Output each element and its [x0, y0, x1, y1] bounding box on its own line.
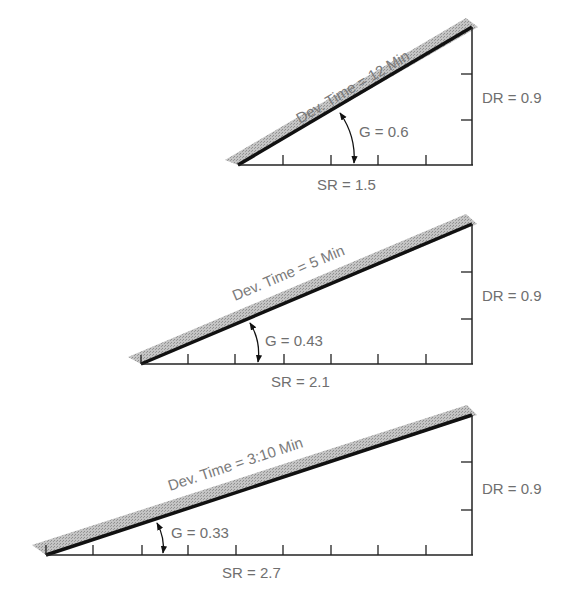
hypotenuse-line: [46, 415, 472, 555]
dr-ticks: [461, 462, 472, 510]
dr-label: DR = 0.9: [482, 89, 542, 106]
gradient-label: G = 0.6: [359, 123, 409, 140]
sr-ticks: [93, 545, 426, 555]
dr-ticks: [461, 74, 472, 120]
sr-ticks: [188, 354, 426, 364]
gradient-label: G = 0.43: [265, 332, 323, 349]
hypotenuse-line: [238, 27, 472, 165]
angle-arrow-icon: [250, 323, 259, 362]
angle-arrow-icon: [157, 523, 163, 553]
sr-label: SR = 2.7: [222, 564, 281, 581]
gradient-label: G = 0.33: [171, 524, 229, 541]
triangle-2: Dev. Time = 5 Min G = 0.43 SR = 2.1 DR =…: [128, 214, 542, 390]
angle-arrow-icon: [340, 113, 354, 163]
dr-label: DR = 0.9: [482, 480, 542, 497]
dev-time-label: Dev. Time = 12 Min: [293, 47, 412, 127]
dev-time-band: [32, 405, 477, 555]
gradient-triangles-diagram: Dev. Time = 12 Min G = 0.6 SR = 1.5 DR =…: [0, 0, 588, 610]
dr-label: DR = 0.9: [482, 287, 542, 304]
triangle-3: Dev. Time = 3:10 Min G = 0.33 SR = 2.7 D…: [32, 405, 542, 581]
triangle-1: Dev. Time = 12 Min G = 0.6 SR = 1.5 DR =…: [225, 18, 542, 193]
dr-ticks: [461, 272, 472, 319]
sr-label: SR = 2.1: [271, 373, 330, 390]
sr-label: SR = 1.5: [317, 176, 376, 193]
